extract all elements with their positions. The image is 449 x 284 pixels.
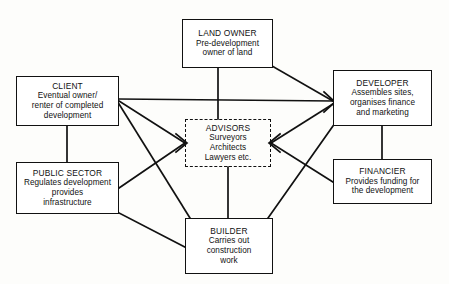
edge-public-sector-builder (119, 213, 185, 247)
node-financier-title: FINANCIER (359, 167, 405, 177)
edge-public-sector-advisors (119, 143, 185, 188)
node-builder-description: Carries out construction work (207, 236, 252, 265)
edge-client-advisors (119, 101, 185, 143)
edge-land-owner-developer (272, 66, 333, 101)
node-developer[interactable]: DEVELOPER Assembles sites, organises fin… (333, 70, 432, 126)
edge-developer-builder (268, 126, 333, 218)
edge-advisors-financier (271, 143, 333, 182)
node-advisors[interactable]: ADVISORS Surveyors Architects Lawyers et… (185, 119, 271, 167)
edge-client-builder (119, 104, 190, 218)
node-financier-description: Provides funding for the development (346, 177, 420, 196)
node-builder[interactable]: BUILDER Carries out construction work (185, 218, 273, 274)
node-public-sector-description: Regulates development provides infrastru… (24, 178, 111, 207)
node-public-sector[interactable]: PUBLIC SECTOR Regulates development prov… (16, 162, 119, 214)
development-process-diagram: LAND OWNER Pre-development owner of land… (0, 0, 449, 284)
node-developer-description: Assembles sites, organises finance and m… (350, 88, 415, 117)
node-land-owner-description: Pre-development owner of land (196, 39, 259, 58)
edge-advisors-developer (271, 104, 333, 143)
node-client-title: CLIENT (52, 82, 83, 92)
node-land-owner-title: LAND OWNER (198, 29, 256, 39)
node-advisors-description: Surveyors Architects Lawyers etc. (205, 133, 252, 162)
edge-client-developer (119, 99, 333, 101)
node-advisors-title: ADVISORS (206, 124, 250, 134)
node-builder-title: BUILDER (210, 227, 247, 237)
node-client[interactable]: CLIENT Eventual owner/ renter of complet… (16, 76, 119, 126)
node-developer-title: DEVELOPER (356, 79, 409, 89)
node-public-sector-title: PUBLIC SECTOR (33, 169, 102, 179)
node-client-description: Eventual owner/ renter of completed deve… (32, 91, 104, 120)
node-financier[interactable]: FINANCIER Provides funding for the devel… (333, 159, 432, 204)
node-land-owner[interactable]: LAND OWNER Pre-development owner of land (182, 19, 273, 68)
